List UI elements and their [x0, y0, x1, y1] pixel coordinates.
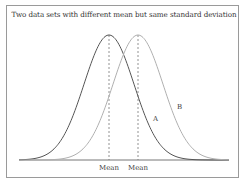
mean-label-b: Mean: [128, 164, 148, 172]
curve-a-label: A: [152, 115, 159, 123]
curve-b: [19, 35, 229, 160]
curve-b-label: B: [177, 103, 182, 111]
mean-label-a: Mean: [99, 164, 119, 172]
plot-area: A B Mean Mean: [0, 0, 248, 189]
